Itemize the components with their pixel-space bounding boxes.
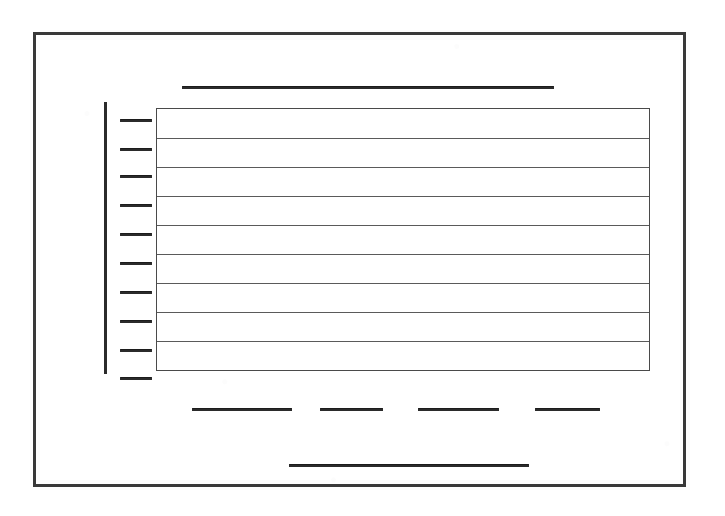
grid-line-6 — [157, 312, 649, 313]
grid-line-2 — [157, 196, 649, 197]
grid-line-1 — [157, 167, 649, 168]
scanned-chart-page — [0, 0, 725, 516]
grid-line-0 — [157, 138, 649, 139]
y-axis-tick-label-redacted-6 — [120, 291, 152, 294]
x-axis-tick-label-redacted-0 — [192, 408, 292, 411]
y-axis-tick-label-redacted-0 — [120, 119, 152, 122]
grid-line-7 — [157, 341, 649, 342]
x-axis-tick-label-redacted-1 — [320, 408, 383, 411]
plot-area — [156, 108, 650, 371]
chart-title-redacted-bar — [182, 86, 554, 89]
grid-line-5 — [157, 283, 649, 284]
x-axis-title-redacted-bar — [289, 464, 529, 467]
y-axis-tick-label-redacted-1 — [120, 148, 152, 151]
chart-title-text — [182, 86, 183, 87]
y-axis-tick-label-redacted-7 — [120, 320, 152, 323]
y-axis-tick-label-redacted-9 — [120, 377, 152, 380]
x-axis-tick-label-redacted-2 — [418, 408, 499, 411]
y-axis-tick-label-redacted-8 — [120, 349, 152, 352]
grid-line-3 — [157, 225, 649, 226]
x-axis-title-text — [289, 464, 290, 465]
grid-line-4 — [157, 254, 649, 255]
y-axis-tick-label-redacted-5 — [120, 262, 152, 265]
y-axis-tick-label-redacted-4 — [120, 233, 152, 236]
y-axis-spine — [104, 102, 107, 374]
y-axis-tick-label-redacted-2 — [120, 175, 152, 178]
y-axis-tick-label-redacted-3 — [120, 204, 152, 207]
x-axis-tick-label-redacted-3 — [535, 408, 600, 411]
